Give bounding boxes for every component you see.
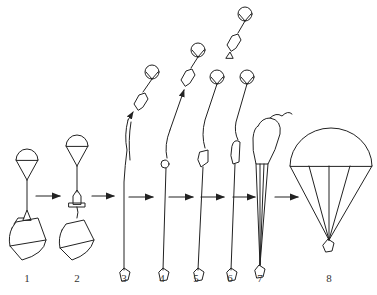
separated-container bbox=[226, 7, 252, 58]
stage-1-drogue-capsule bbox=[9, 149, 46, 260]
main-canopy-icon bbox=[290, 128, 372, 166]
stage-7-inflation bbox=[253, 112, 292, 278]
stage-6-canopy-stretch bbox=[227, 70, 254, 281]
stage-8-full-canopy bbox=[290, 128, 372, 252]
stage-label-4: 4 bbox=[159, 272, 165, 284]
stage-label-2: 2 bbox=[74, 272, 80, 284]
stage-2-drogue-container-capsule bbox=[59, 135, 94, 260]
stage-label-8: 8 bbox=[326, 272, 332, 284]
stage-label-6: 6 bbox=[227, 272, 233, 284]
stage-3-pack-extraction bbox=[120, 65, 159, 281]
pilot-chute-icon bbox=[238, 7, 252, 21]
capsule-icon bbox=[59, 220, 94, 260]
pilot-chute-icon bbox=[210, 70, 224, 84]
capsule-icon bbox=[9, 218, 46, 260]
payload-icon bbox=[323, 239, 334, 252]
inflating-canopy-icon bbox=[253, 118, 280, 164]
pilot-chute-icon bbox=[191, 43, 205, 57]
stage-label-3: 3 bbox=[121, 272, 127, 284]
pilot-chute-icon bbox=[240, 70, 254, 84]
stage-5-lines-stretch bbox=[194, 70, 224, 281]
drogue-canopy-icon bbox=[16, 149, 38, 160]
stage-label-1: 1 bbox=[24, 272, 30, 284]
diagram-canvas bbox=[0, 0, 377, 295]
drogue-canopy-icon bbox=[66, 135, 88, 146]
stage-label-7: 7 bbox=[257, 272, 263, 284]
stage-label-5: 5 bbox=[193, 272, 199, 284]
parachute-sequence-diagram: 1 2 3 4 5 6 7 8 bbox=[0, 0, 377, 295]
sequence-arrows bbox=[36, 196, 298, 197]
pilot-chute-icon bbox=[145, 65, 159, 79]
stage-4-deployment bbox=[159, 43, 205, 281]
